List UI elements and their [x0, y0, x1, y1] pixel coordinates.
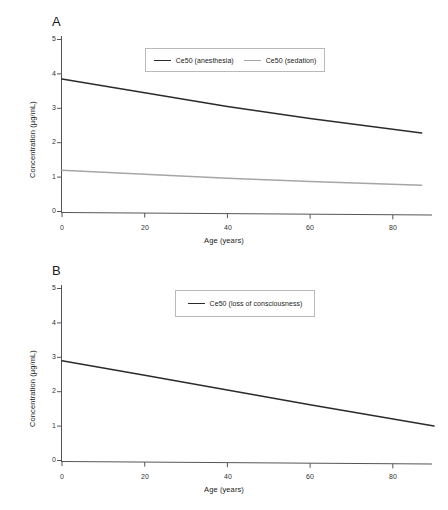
figure-container: A Concentration (µg/mL) 0 1 2 3 4 5 0 20…: [0, 0, 448, 510]
panel-b-x-axis-line: [62, 462, 433, 465]
panel-b: B Concentration (µg/mL) 0 1 2 3 4 5 0 20…: [0, 252, 448, 502]
panel-b-legend-entry-loc: Ce50 (loss of consciousness): [188, 300, 303, 307]
panel-a-legend-entry-anesthesia: Ce50 (anesthesia): [154, 57, 234, 64]
panel-a-plot: [0, 0, 448, 250]
legend-line-swatch-sedation: [244, 60, 261, 61]
legend-line-swatch-loc: [188, 303, 205, 304]
panel-a-series-group: [62, 79, 422, 185]
panel-a-x-axis-line: [62, 213, 433, 216]
panel-b-y-ticks: [57, 289, 62, 461]
panel-a: A Concentration (µg/mL) 0 1 2 3 4 5 0 20…: [0, 0, 448, 250]
panel-a-legend-label-sedation: Ce50 (sedation): [266, 57, 317, 64]
series-line-1: [62, 79, 422, 133]
panel-b-series-group: [62, 361, 434, 426]
panel-b-legend-label-loc: Ce50 (loss of consciousness): [210, 300, 303, 307]
series-line-1: [62, 361, 434, 426]
series-line-2: [62, 170, 422, 185]
panel-a-legend-label-anesthesia: Ce50 (anesthesia): [176, 57, 234, 64]
panel-a-legend: Ce50 (anesthesia) Ce50 (sedation): [145, 48, 325, 72]
panel-a-y-ticks: [57, 40, 62, 212]
legend-line-swatch-anesthesia: [154, 60, 171, 61]
panel-b-legend: Ce50 (loss of consciousness): [175, 290, 315, 317]
panel-a-legend-entry-sedation: Ce50 (sedation): [244, 57, 317, 64]
